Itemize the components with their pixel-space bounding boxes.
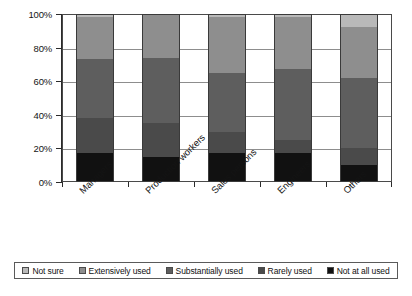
bar-segment (340, 27, 378, 77)
legend-swatch-icon (258, 267, 265, 274)
legend-label: Rarely used (268, 266, 312, 276)
legend-item: Substantially used (166, 266, 243, 276)
bar-segment (142, 14, 180, 58)
y-axis-tick-label: 40% (34, 109, 52, 120)
bar-segment (274, 69, 312, 140)
bar-managers (76, 14, 114, 182)
y-axis-tick (56, 148, 61, 149)
bar-segment (208, 132, 246, 154)
bar-segment (274, 17, 312, 69)
chart-legend: Not sureExtensively usedSubstantially us… (14, 262, 398, 279)
legend-swatch-icon (79, 267, 86, 274)
bar-segment (142, 123, 180, 157)
legend-item: Rarely used (258, 266, 312, 276)
stacked-bar-chart: 0%20%40%60%80%100% ManagersProduction wo… (0, 0, 412, 296)
bar-segment (208, 17, 246, 72)
bar-segment (340, 78, 378, 149)
legend-item: Extensively used (79, 266, 151, 276)
bar-group (62, 14, 392, 182)
y-axis-tick-label: 20% (34, 143, 52, 154)
bar-segment (76, 17, 114, 59)
y-axis-tick (56, 115, 61, 116)
legend-swatch-icon (22, 267, 29, 274)
legend-item: Not at all used (327, 266, 390, 276)
x-axis-labels: ManagersProduction workersSales personsE… (0, 182, 412, 254)
bar-segment (76, 59, 114, 118)
legend-label: Substantially used (176, 266, 243, 276)
bar-segment (340, 148, 378, 165)
bar-engineers (274, 14, 312, 182)
legend-item: Not sure (22, 266, 63, 276)
legend-swatch-icon (327, 267, 334, 274)
bar-others (340, 14, 378, 182)
bar-segment (208, 73, 246, 132)
legend-swatch-icon (166, 267, 173, 274)
bar-segment (76, 118, 114, 153)
bar-segment (274, 140, 312, 153)
y-axis-tick (56, 14, 61, 15)
legend-label: Extensively used (89, 266, 151, 276)
legend-label: Not sure (32, 266, 63, 276)
y-axis-tick-label: 100% (29, 9, 53, 20)
y-axis-tick-label: 60% (34, 76, 52, 87)
y-axis-tick (56, 48, 61, 49)
bar-segment (142, 58, 180, 124)
y-axis-tick (56, 81, 61, 82)
bar-segment (340, 14, 378, 27)
legend-label: Not at all used (337, 266, 390, 276)
y-axis-tick-label: 80% (34, 42, 52, 53)
